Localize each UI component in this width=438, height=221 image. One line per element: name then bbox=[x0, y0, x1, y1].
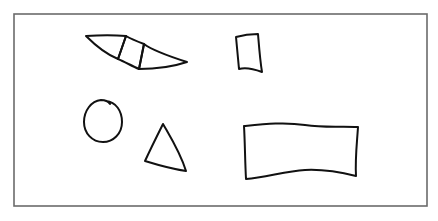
small-quadrilateral bbox=[236, 34, 262, 72]
circle-shape bbox=[84, 100, 122, 142]
triangle-shape bbox=[145, 124, 186, 171]
frame-border bbox=[14, 14, 427, 206]
wavy-rectangle bbox=[244, 123, 358, 179]
bowtie-right-wing bbox=[139, 44, 187, 69]
sketch-canvas bbox=[0, 0, 438, 221]
bowtie-shape bbox=[86, 35, 187, 69]
